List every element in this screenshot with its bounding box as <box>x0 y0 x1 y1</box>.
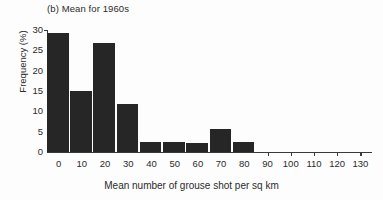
x-tick-label: 40 <box>146 159 157 169</box>
x-axis-line <box>47 152 372 153</box>
plot-area: 051015202530 010203040506070809010011012… <box>47 26 372 152</box>
x-tick-label: 100 <box>283 159 299 169</box>
x-tick-label: 60 <box>193 159 204 169</box>
bar <box>93 43 115 152</box>
x-tick-label: 30 <box>123 159 134 169</box>
x-tick-label: 120 <box>329 159 345 169</box>
x-tick-label: 90 <box>262 159 273 169</box>
bar <box>117 104 139 152</box>
y-tick-label: 20 <box>32 66 43 76</box>
bar <box>233 142 255 152</box>
x-axis-title: Mean number of grouse shot per sq km <box>0 180 383 191</box>
x-tick-label: 130 <box>352 159 368 169</box>
x-tick-mark <box>291 152 292 156</box>
y-tick-label: 25 <box>32 46 43 56</box>
y-tick-label: 30 <box>32 25 43 35</box>
bar <box>210 129 232 152</box>
x-tick-label: 20 <box>100 159 111 169</box>
x-tick-mark <box>337 152 338 156</box>
x-tick-label: 110 <box>306 159 321 169</box>
bar <box>47 33 69 152</box>
bar <box>163 142 185 152</box>
y-axis-title: Frequency (%) <box>17 2 28 122</box>
x-tick-mark <box>314 152 315 156</box>
bar <box>140 142 162 152</box>
x-tick-label: 10 <box>77 159 88 169</box>
y-tick-label: 5 <box>38 127 43 137</box>
page-title: (b) Mean for 1960s <box>47 3 129 14</box>
figure-panel: (b) Mean for 1960s Frequency (%) 0510152… <box>0 0 383 200</box>
y-tick-label: 0 <box>38 147 43 157</box>
x-tick-label: 70 <box>216 159 227 169</box>
x-tick-label: 50 <box>169 159 180 169</box>
x-tick-label: 0 <box>56 159 61 169</box>
x-tick-label: 80 <box>239 159 250 169</box>
y-tick-label: 15 <box>32 86 43 96</box>
x-tick-mark <box>360 152 361 156</box>
y-tick-label: 10 <box>32 107 43 117</box>
x-tick-mark <box>268 152 269 156</box>
bar <box>186 143 208 152</box>
bar <box>70 91 92 152</box>
bar-series <box>47 26 372 152</box>
